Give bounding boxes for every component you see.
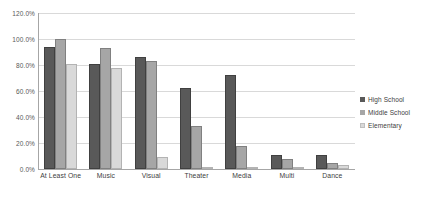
legend-item-label: High School	[368, 96, 404, 103]
bar[interactable]	[55, 39, 66, 169]
bar[interactable]	[293, 167, 304, 169]
chart-legend: High SchoolMiddle SchoolElementary	[360, 93, 430, 132]
legend-item-label: Middle School	[368, 109, 410, 116]
bar[interactable]	[316, 155, 327, 169]
y-axis-tick-labels: 0.0%20.0%40.0%60.0%80.0%100.0%120.0%	[0, 13, 35, 169]
bar-group	[83, 13, 128, 169]
bar-group	[219, 13, 264, 169]
bar-group	[310, 13, 355, 169]
bar[interactable]	[225, 75, 236, 169]
x-axis-tick-label: Theater	[174, 172, 219, 179]
y-axis-tick-label: 40.0%	[1, 114, 35, 121]
bar[interactable]	[271, 155, 282, 169]
y-axis-tick-label: 100.0%	[1, 36, 35, 43]
bar-group	[264, 13, 309, 169]
y-axis-tick-label: 80.0%	[1, 62, 35, 69]
bar[interactable]	[146, 61, 157, 169]
legend-swatch-icon	[360, 97, 365, 102]
bar[interactable]	[44, 47, 55, 169]
x-axis-tick-label: Music	[83, 172, 128, 179]
bar[interactable]	[111, 68, 122, 169]
bar-group	[129, 13, 174, 169]
bar[interactable]	[135, 57, 146, 169]
x-axis-tick-labels: At Least OneMusicVisualTheaterMediaMulti…	[38, 172, 355, 179]
legend-item-label: Elementary	[368, 122, 402, 129]
bar[interactable]	[338, 165, 349, 169]
bar-chart: 0.0%20.0%40.0%60.0%80.0%100.0%120.0% At …	[0, 0, 432, 205]
bar[interactable]	[282, 159, 293, 169]
y-axis-tick-label: 120.0%	[1, 10, 35, 17]
legend-item[interactable]: High School	[360, 93, 430, 106]
y-axis-tick-label: 0.0%	[1, 166, 35, 173]
bar[interactable]	[191, 126, 202, 169]
bar[interactable]	[66, 64, 77, 169]
y-axis-tick-label: 20.0%	[1, 140, 35, 147]
x-axis-tick-label: Visual	[129, 172, 174, 179]
bar[interactable]	[327, 163, 338, 170]
legend-swatch-icon	[360, 110, 365, 115]
x-axis-baseline	[38, 169, 355, 170]
bar[interactable]	[202, 167, 213, 169]
legend-item[interactable]: Elementary	[360, 119, 430, 132]
bar-group	[174, 13, 219, 169]
legend-item[interactable]: Middle School	[360, 106, 430, 119]
x-axis-tick-label: Dance	[310, 172, 355, 179]
bar-group	[38, 13, 83, 169]
x-axis-tick-label: Media	[219, 172, 264, 179]
bar[interactable]	[157, 157, 168, 169]
bar[interactable]	[89, 64, 100, 169]
bar[interactable]	[247, 167, 258, 169]
bar[interactable]	[236, 146, 247, 169]
y-axis-tick-label: 60.0%	[1, 88, 35, 95]
bar[interactable]	[100, 48, 111, 169]
bar-groups	[38, 13, 355, 169]
x-axis-tick-label: Multi	[264, 172, 309, 179]
legend-swatch-icon	[360, 123, 365, 128]
x-axis-tick-label: At Least One	[38, 172, 83, 179]
bar[interactable]	[180, 88, 191, 169]
